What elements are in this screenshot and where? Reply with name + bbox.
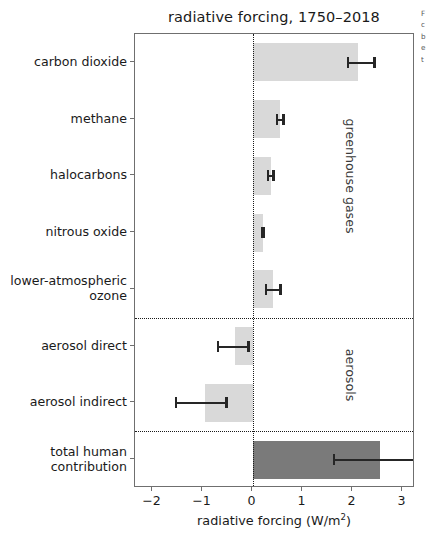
errorbar-line <box>347 62 376 64</box>
errorbar-cap-low <box>333 454 335 465</box>
x-tick-label-3: 1 <box>287 493 317 508</box>
errorbar-cap-high <box>272 170 274 181</box>
y-axis-label-line-1: lower-atmospheric <box>10 273 127 288</box>
bar-carbon-dioxide <box>253 43 358 81</box>
y-tick-mark-0 <box>130 61 134 62</box>
errorbar-cap-low <box>175 397 177 408</box>
plot-area: greenhouse gasesaerosols <box>134 33 414 487</box>
errorbar-halocarbons <box>267 170 275 181</box>
y-tick-mark-2 <box>130 174 134 175</box>
y-axis-label-aerosol-indirect: aerosol indirect <box>30 394 127 409</box>
errorbar-methane <box>276 114 285 125</box>
side-caption-line-2: c <box>421 19 436 30</box>
errorbar-cap-high <box>282 114 284 125</box>
side-caption: F c b e t <box>421 8 436 65</box>
errorbar-cap-low <box>267 170 269 181</box>
errorbar-cap-high <box>373 57 375 68</box>
errorbar-aerosol-indirect <box>175 397 228 408</box>
y-axis-label-total-human-contribution: total humancontribution <box>50 444 127 474</box>
errorbar-aerosol-direct <box>217 341 250 352</box>
y-tick-mark-4 <box>130 288 134 289</box>
x-tick-label-5: 3 <box>387 493 417 508</box>
chart-title: radiative forcing, 1750–2018 <box>134 9 414 25</box>
errorbar-total-human-contribution <box>333 454 414 465</box>
group-separator-1 <box>135 318 413 319</box>
y-tick-mark-6 <box>130 401 134 402</box>
errorbar-cap-high <box>262 227 264 238</box>
side-caption-line-4: e <box>421 42 436 53</box>
errorbar-carbon-dioxide <box>347 57 376 68</box>
y-tick-mark-3 <box>130 231 134 232</box>
errorbar-cap-high <box>225 397 227 408</box>
group-label-greenhouse-gases: greenhouse gases <box>343 118 358 233</box>
x-tick-mark-2 <box>251 487 252 491</box>
x-axis-title-main: radiative forcing (W/m <box>197 513 340 528</box>
errorbar-line <box>333 459 414 461</box>
errorbar-line <box>217 346 250 348</box>
x-axis-title: radiative forcing (W/m2) <box>134 513 414 528</box>
errorbar-cap-low <box>347 57 349 68</box>
figure-canvas: radiative forcing, 1750–2018 greenhouse … <box>0 0 436 539</box>
y-axis-label-halocarbons: halocarbons <box>50 167 127 182</box>
y-axis-label-carbon-dioxide: carbon dioxide <box>34 54 127 69</box>
y-axis-label-line-1: total human <box>50 444 127 459</box>
group-separator-2 <box>135 431 413 432</box>
y-tick-mark-5 <box>130 345 134 346</box>
y-axis-label-aerosol-direct: aerosol direct <box>41 338 127 353</box>
group-label-aerosols: aerosols <box>343 348 358 400</box>
plot-inner: greenhouse gasesaerosols <box>135 34 413 486</box>
errorbar-lower-atmospheric-ozone <box>265 284 282 295</box>
errorbar-cap-low <box>217 341 219 352</box>
x-tick-mark-1 <box>201 487 202 491</box>
errorbar-cap-low <box>265 284 267 295</box>
errorbar-cap-high <box>279 284 281 295</box>
x-tick-mark-5 <box>401 487 402 491</box>
y-axis-label-lower-atmospheric-ozone: lower-atmosphericozone <box>10 273 127 303</box>
y-tick-mark-7 <box>130 458 134 459</box>
y-tick-mark-1 <box>130 118 134 119</box>
errorbar-cap-low <box>276 114 278 125</box>
x-tick-mark-0 <box>151 487 152 491</box>
y-axis-label-methane: methane <box>71 111 127 126</box>
side-caption-line-5: t <box>421 54 436 65</box>
x-tick-label-4: 2 <box>337 493 367 508</box>
errorbar-line <box>175 402 228 404</box>
side-caption-line-3: b <box>421 31 436 42</box>
y-axis-label-line-2: contribution <box>50 459 127 474</box>
x-tick-label-2: 0 <box>237 493 267 508</box>
x-axis-title-tail: ) <box>346 513 351 528</box>
x-tick-label-1: −1 <box>187 493 217 508</box>
errorbar-nitrous-oxide <box>261 227 265 238</box>
y-axis-label-nitrous-oxide: nitrous oxide <box>45 224 127 239</box>
errorbar-cap-high <box>247 341 249 352</box>
y-axis-label-line-2: ozone <box>10 288 127 303</box>
side-caption-line-1: F <box>421 8 436 19</box>
x-tick-label-0: −2 <box>137 493 167 508</box>
x-tick-mark-3 <box>301 487 302 491</box>
x-tick-mark-4 <box>351 487 352 491</box>
zero-reference-line <box>253 34 254 486</box>
